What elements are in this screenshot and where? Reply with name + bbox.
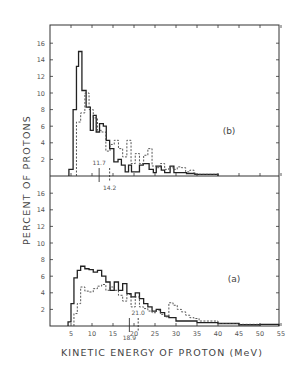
y-tick-label: 12 — [37, 73, 45, 81]
histograms — [68, 52, 279, 327]
mean-marker-label: 21.0 — [132, 309, 146, 316]
panel-label-b: (b) — [223, 126, 236, 136]
panel-label-a: (a) — [228, 274, 241, 284]
y-tick-label: 14 — [37, 56, 45, 64]
y-tick-label: 2 — [41, 156, 45, 164]
plot-frames — [50, 25, 279, 326]
annotations: 11.714.218.921.0 — [92, 159, 145, 341]
y-tick-label: 12 — [37, 223, 45, 231]
y-tick-label: 16 — [37, 40, 45, 48]
mean-marker-label: 11.7 — [92, 159, 106, 166]
x-axis-label: KINETIC ENERGY OF PROTON (MeV) — [61, 347, 263, 358]
y-tick-label: 4 — [41, 289, 45, 297]
y-tick-label: 8 — [41, 256, 45, 264]
y-tick-label: 6 — [41, 123, 45, 131]
x-tick-label: 30 — [172, 330, 180, 338]
x-tick-label: 45 — [235, 330, 243, 338]
x-tick-label: 15 — [109, 330, 117, 338]
x-tick-label: 35 — [193, 330, 201, 338]
mean-marker-label: 18.9 — [123, 334, 137, 341]
x-tick-label: 25 — [151, 330, 159, 338]
histogram-solid-a — [68, 266, 279, 326]
x-tick-label: 5 — [69, 330, 73, 338]
y-tick-label: 14 — [37, 206, 45, 214]
histogram-dashed-a — [74, 285, 260, 327]
x-tick-label: 40 — [214, 330, 222, 338]
y-tick-label: 16 — [37, 190, 45, 198]
y-tick-label: 10 — [37, 90, 45, 98]
x-tick-label: 50 — [256, 330, 264, 338]
figure: 2468101214162468101214165101520253035404… — [0, 0, 299, 376]
y-tick-label: 4 — [41, 139, 45, 147]
y-axis-label: PERCENT OF PROTONS — [21, 115, 32, 245]
x-tick-label: 10 — [88, 330, 96, 338]
y-tick-label: 8 — [41, 106, 45, 114]
y-tick-label: 10 — [37, 240, 45, 248]
y-tick-label: 6 — [41, 273, 45, 281]
mean-marker-label: 14.2 — [103, 184, 117, 191]
x-tick-label: 55 — [277, 330, 285, 338]
y-tick-label: 2 — [41, 306, 45, 314]
